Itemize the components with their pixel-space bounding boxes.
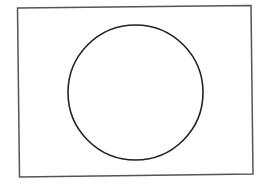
center-circle (68, 25, 203, 160)
flag-outline-diagram (0, 0, 262, 186)
rectangle-frame (18, 6, 254, 178)
